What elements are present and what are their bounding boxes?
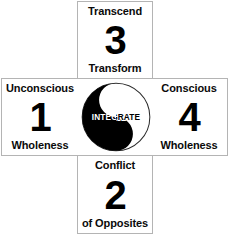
quadrant-right-caption-top: Conscious <box>161 82 216 95</box>
quadrant-right: Conscious 4 Wholeness <box>150 78 228 156</box>
center-symbol-container: INTEGRATE INTEGRATE <box>78 79 153 155</box>
quadrant-left-number: 1 <box>29 97 50 137</box>
integration-diagram: Transcend 3 Transform Conflict 2 of Oppo… <box>0 0 229 235</box>
quadrant-top-caption-bottom: Transform <box>89 62 142 75</box>
quadrant-top-caption-top: Transcend <box>88 5 142 18</box>
quadrant-top-number: 3 <box>104 20 125 60</box>
quadrant-right-caption-bottom: Wholeness <box>160 139 217 152</box>
quadrant-bottom: Conflict 2 of Opposites <box>77 155 153 234</box>
quadrant-left-caption-bottom: Wholeness <box>11 139 68 152</box>
yin-yang-icon: INTEGRATE INTEGRATE <box>80 81 152 153</box>
quadrant-bottom-number: 2 <box>104 175 125 215</box>
quadrant-right-number: 4 <box>178 97 199 137</box>
quadrant-left-caption-top: Unconscious <box>6 82 74 95</box>
quadrant-left: Unconscious 1 Wholeness <box>1 78 79 156</box>
center-symbol-label: INTEGRATE INTEGRATE <box>91 113 140 122</box>
quadrant-bottom-caption-top: Conflict <box>95 159 135 172</box>
quadrant-top: Transcend 3 Transform <box>77 1 153 79</box>
quadrant-bottom-caption-bottom: of Opposites <box>82 217 148 230</box>
